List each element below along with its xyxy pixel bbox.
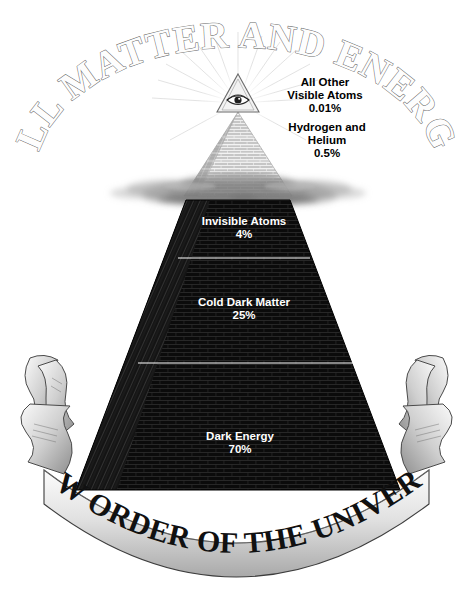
label-line1: Dark Energy — [206, 430, 274, 442]
label-value: 70% — [228, 443, 251, 455]
label-line1: Cold Dark Matter — [198, 296, 291, 308]
label-line2: Visible Atoms — [287, 89, 362, 101]
label-value: 25% — [232, 309, 255, 321]
label-value: 0.5% — [314, 147, 340, 159]
label-line1: Invisible Atoms — [202, 215, 287, 227]
label-line2: Helium — [308, 134, 346, 146]
label-line1: All Other — [301, 76, 350, 88]
label-value: 0.01% — [309, 102, 342, 114]
poster-canvas: ALL MATTER AND ENERGY — [0, 0, 473, 605]
label-value: 4% — [236, 228, 253, 240]
label-line1: Hydrogen and — [288, 121, 365, 133]
